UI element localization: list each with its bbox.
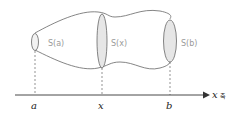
section-x-ellipse: [97, 14, 107, 68]
x-axis-suffix: 축: [220, 92, 226, 100]
section-a-ellipse: [32, 34, 39, 51]
section-b-label: S(b): [181, 39, 197, 48]
solid-cross-section-diagram: S(a) S(x) S(b) x 축 a x b: [0, 0, 234, 117]
tick-b: b: [166, 100, 172, 111]
section-a-label: S(a): [48, 39, 64, 48]
section-b-ellipse: [164, 20, 177, 62]
tick-a: a: [31, 100, 37, 111]
x-axis-label: x: [212, 89, 218, 100]
tick-x: x: [98, 100, 104, 111]
section-x-label: S(x): [111, 39, 127, 48]
x-axis-arrow-icon: [203, 92, 210, 99]
